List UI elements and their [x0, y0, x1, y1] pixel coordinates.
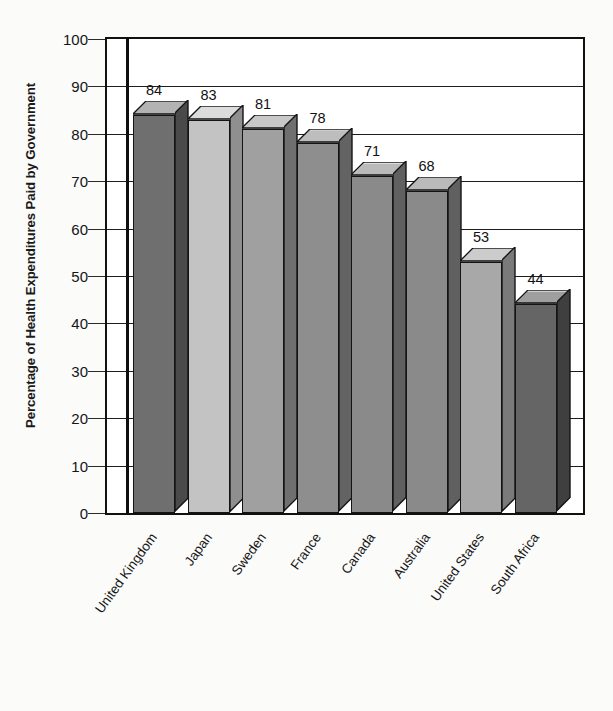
bar-side-face	[557, 289, 572, 513]
bar-south-africa[interactable]: 44	[515, 291, 557, 513]
y-axis-tick-label: 30	[44, 362, 88, 379]
bar-australia[interactable]: 68	[406, 178, 448, 513]
y-axis-tick-label: 80	[44, 125, 88, 142]
bars-container: 8483817871685344	[107, 39, 583, 513]
y-axis-tick-label: 0	[44, 505, 88, 522]
y-axis-tick-mark	[88, 181, 106, 182]
y-axis-tick-label: 100	[44, 31, 88, 48]
bar-chart: Percentage of Health Expenditures Paid b…	[0, 0, 613, 711]
bar-value-label: 83	[200, 87, 216, 103]
y-axis-tick-label: 10	[44, 457, 88, 474]
y-axis-tick-label: 20	[44, 410, 88, 427]
bar-united-kingdom[interactable]: 84	[133, 102, 175, 513]
bar-front-face	[188, 120, 230, 513]
bar-front-face	[460, 262, 502, 513]
y-axis-tick-mark	[88, 276, 106, 277]
bar-front-face	[351, 176, 393, 513]
bar-value-label: 84	[146, 82, 162, 98]
bar-front-face	[406, 191, 448, 513]
bar-france[interactable]: 78	[297, 130, 339, 513]
bar-front-face	[297, 143, 339, 513]
x-axis-label-france: France	[217, 530, 323, 668]
y-axis-title-container: Percentage of Health Expenditures Paid b…	[0, 0, 36, 530]
y-axis-tick-mark	[88, 229, 106, 230]
y-axis-tick-label: 60	[44, 220, 88, 237]
y-axis-tick-label: 90	[44, 78, 88, 95]
bar-front-face	[242, 129, 284, 513]
y-axis-tick-mark	[88, 39, 106, 40]
bar-value-label: 68	[418, 158, 434, 174]
y-axis-tick-mark	[88, 323, 106, 324]
x-axis-label-south-africa: South Africa	[435, 530, 541, 668]
y-axis-title: Percentage of Health Expenditures Paid b…	[23, 21, 38, 491]
y-axis-tick-mark	[88, 86, 106, 87]
bar-value-label: 53	[473, 229, 489, 245]
y-axis-tick-mark	[88, 513, 106, 514]
bar-value-label: 44	[527, 271, 543, 287]
bar-sweden[interactable]: 81	[242, 116, 284, 513]
bar-value-label: 78	[309, 110, 325, 126]
x-axis-label-sweden: Sweden	[163, 530, 269, 668]
bar-canada[interactable]: 71	[351, 163, 393, 513]
bar-value-label: 71	[364, 143, 380, 159]
y-axis-tick-labels: 0102030405060708090100	[38, 0, 88, 560]
y-axis-tick-label: 40	[44, 315, 88, 332]
y-axis-tick-mark	[88, 134, 106, 135]
bar-front-face	[515, 304, 557, 513]
x-axis-label-canada: Canada	[272, 530, 378, 668]
x-axis-label-japan: Japan	[108, 530, 214, 668]
x-axis-label-australia: Australia	[326, 530, 432, 668]
y-axis-tick-mark	[88, 371, 106, 372]
bar-united-states[interactable]: 53	[460, 249, 502, 513]
plot-area: 8483817871685344	[105, 37, 585, 515]
y-axis-tick-label: 50	[44, 268, 88, 285]
bar-value-label: 81	[255, 96, 271, 112]
bar-japan[interactable]: 83	[188, 107, 230, 513]
y-axis-tick-label: 70	[44, 173, 88, 190]
y-axis-tick-mark	[88, 466, 106, 467]
y-axis-tick-mark	[88, 418, 106, 419]
bar-front-face	[133, 115, 175, 513]
x-axis-label-united-states: United States	[381, 530, 487, 668]
